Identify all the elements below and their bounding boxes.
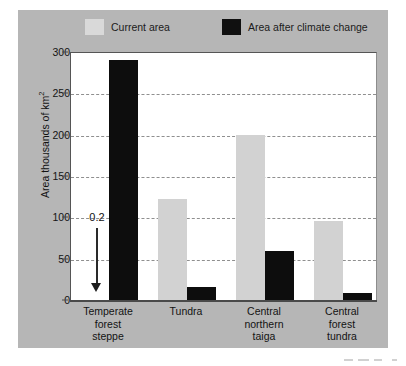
y-tick-mark	[62, 52, 68, 53]
plot-area: 0.2	[70, 52, 377, 301]
y-tick-mark	[62, 258, 68, 259]
x-label-line: forest	[294, 318, 390, 331]
x-axis-labels: Temperate forest steppe Tundra Central n…	[70, 305, 377, 349]
legend-label-current-area: Current area	[111, 22, 170, 33]
legend-item-current-area: Current area	[85, 18, 170, 36]
y-tick-mark	[62, 134, 68, 135]
annotation-arrow-head-icon	[91, 283, 101, 292]
annotation-0point2: 0.2	[74, 211, 120, 301]
y-tick-mark	[62, 93, 68, 94]
chart-legend: Current area Area after climate change	[18, 16, 388, 42]
scan-artifact	[342, 355, 402, 364]
legend-label-after-climate-change: Area after climate change	[248, 22, 368, 33]
y-tick-mark	[62, 217, 68, 218]
y-axis: 300 250 200 150 100 50 0	[18, 52, 70, 300]
bar-current-area-central-northern-taiga	[236, 135, 265, 301]
bar-after-climate-change-central-northern-taiga	[265, 251, 294, 301]
x-label-line: Central	[294, 305, 390, 318]
x-label-line: steppe	[60, 330, 156, 343]
chart-figure: Current area Area after climate change A…	[18, 10, 388, 348]
x-axis-label-central-forest-tundra: Central forest tundra	[294, 305, 390, 343]
x-label-line: forest	[60, 318, 156, 331]
bar-current-area-central-forest-tundra	[314, 221, 343, 301]
annotation-arrow-line	[96, 228, 98, 286]
legend-item-after-climate-change: Area after climate change	[222, 18, 368, 36]
x-axis-line	[70, 300, 377, 302]
light-gray-swatch-icon	[85, 19, 104, 35]
y-tick-mark	[62, 300, 68, 301]
bar-current-area-tundra	[158, 199, 187, 301]
black-swatch-icon	[222, 19, 241, 35]
annotation-label: 0.2	[74, 211, 120, 223]
x-label-line: tundra	[294, 330, 390, 343]
y-tick-mark	[62, 176, 68, 177]
bar-after-climate-change-tundra	[187, 287, 216, 301]
